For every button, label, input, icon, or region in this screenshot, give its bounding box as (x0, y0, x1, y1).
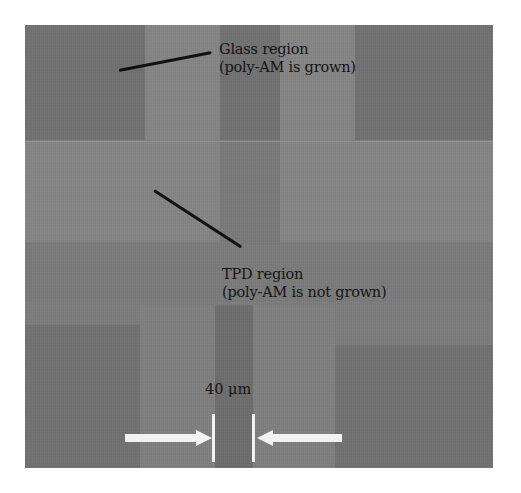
scale-tick-right (252, 414, 255, 462)
glass-pad-middle-center (220, 142, 280, 242)
tpd-region-label: TPD region (poly-AM is not grown) (222, 265, 386, 301)
scale-arrow-left-shaft (125, 434, 197, 442)
tpd-stripe-top-left (145, 25, 220, 140)
scale-arrow-right-pointing-icon (196, 430, 212, 446)
glass-region-label: Glass region (poly-AM is grown) (219, 40, 356, 76)
scale-arrow-left-pointing-icon (257, 430, 273, 446)
scale-arrow-right-shaft (272, 434, 342, 442)
scale-tick-left (212, 414, 215, 462)
tpd-region-note: (poly-AM is not grown) (222, 283, 386, 301)
scale-bar-label: 40 μm (205, 381, 251, 397)
glass-pad-bottom-right (335, 345, 493, 468)
glass-pad-top-left (25, 25, 145, 140)
faint-horizontal-line (25, 141, 493, 142)
glass-region-note: (poly-AM is grown) (219, 58, 356, 76)
glass-region-title: Glass region (219, 40, 356, 58)
glass-pad-top-right (355, 25, 493, 140)
tpd-region-title: TPD region (222, 265, 386, 283)
micrograph-image (25, 25, 493, 468)
glass-pad-bottom-left (25, 325, 140, 468)
